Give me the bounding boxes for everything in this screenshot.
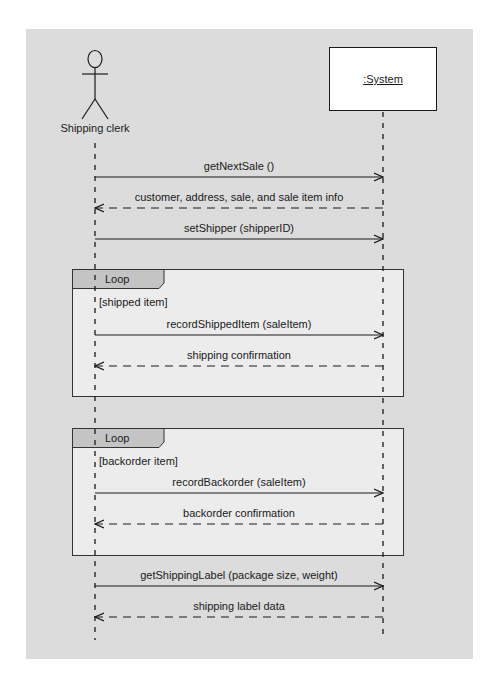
return-shipping-label-data-label: shipping label data — [193, 600, 285, 612]
loop-guard-shipped: [shipped item] — [99, 296, 167, 308]
loop-operator-shipped: Loop — [105, 273, 129, 285]
actor-icon — [82, 51, 108, 120]
actor-label: Shipping clerk — [60, 122, 129, 134]
msg-recordBackorder-label: recordBackorder (saleItem) — [172, 476, 305, 488]
return-backorder-confirmation-label: backorder confirmation — [183, 507, 295, 519]
return-customer-info-label: customer, address, sale, and sale item i… — [135, 191, 344, 203]
msg-getNextSale-label: getNextSale () — [204, 160, 274, 172]
return-shipping-confirmation-label: shipping confirmation — [187, 349, 291, 361]
loop-guard-backorder: [backorder item] — [99, 455, 178, 467]
system-label: :System — [363, 73, 403, 85]
loop-operator-backorder: Loop — [105, 432, 129, 444]
msg-getShippingLabel-label: getShippingLabel (package size, weight) — [140, 569, 338, 581]
system-object-box: :System — [329, 47, 437, 111]
msg-setShipper-label: setShipper (shipperID) — [184, 222, 294, 234]
msg-recordShippedItem-label: recordShippedItem (saleItem) — [167, 318, 312, 330]
